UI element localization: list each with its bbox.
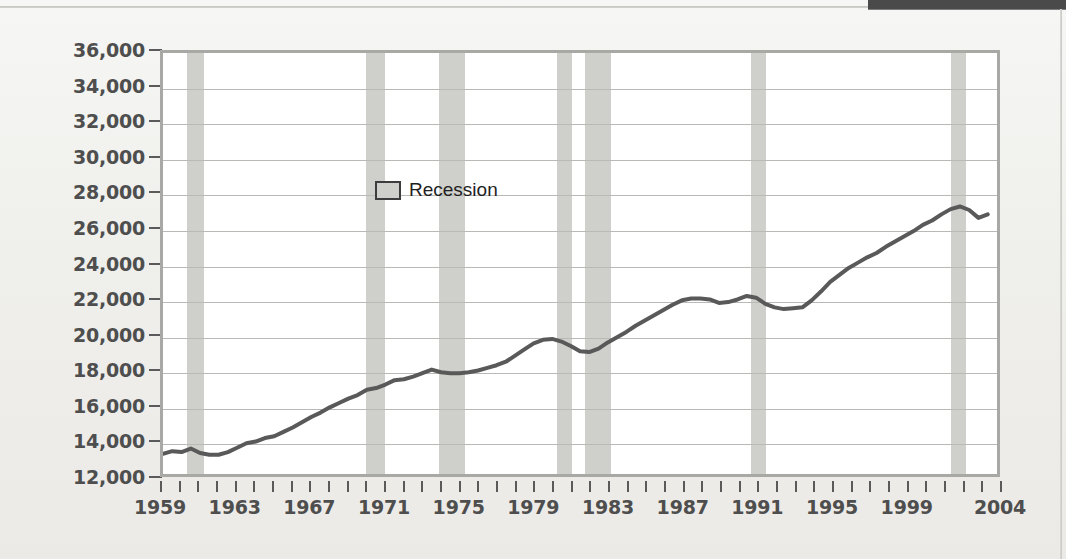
x-axis-tick-label: 1991 <box>717 496 797 518</box>
x-axis-tick-mark <box>309 481 311 492</box>
x-axis-tick-mark <box>291 481 293 492</box>
x-axis-tick-mark <box>459 481 461 492</box>
x-axis-tick-label: 1983 <box>568 496 648 518</box>
x-axis-tick-mark <box>963 481 965 492</box>
y-axis-tick-label: 36,000 <box>55 39 145 61</box>
x-axis-tick-mark <box>421 481 423 492</box>
y-axis-tick-label: 18,000 <box>55 359 145 381</box>
y-axis-tick-label: 16,000 <box>55 395 145 417</box>
x-axis-tick-mark <box>515 481 517 492</box>
x-axis-tick-mark <box>664 481 666 492</box>
y-axis-tick-labels: 12,00014,00016,00018,00020,00022,00024,0… <box>55 0 145 559</box>
x-axis-tick-mark <box>253 481 255 492</box>
chart-legend: Recession <box>375 179 498 201</box>
x-axis-tick-label: 1963 <box>195 496 275 518</box>
x-axis-tick-mark <box>795 481 797 492</box>
y-axis-tick-label: 14,000 <box>55 430 145 452</box>
x-axis-tick-mark <box>925 481 927 492</box>
x-axis-tick-mark <box>608 481 610 492</box>
y-axis-tick-label: 26,000 <box>55 217 145 239</box>
x-axis-tick-mark <box>440 481 442 492</box>
x-axis-tick-mark <box>160 481 162 492</box>
plot-area: Recession <box>160 50 1000 477</box>
x-axis-tick-mark <box>739 481 741 492</box>
x-axis-tick-mark <box>589 481 591 492</box>
x-axis-tick-mark <box>720 481 722 492</box>
x-axis-tick-mark <box>981 481 983 492</box>
x-axis-tick-mark <box>552 481 554 492</box>
x-axis-tick-mark <box>216 481 218 492</box>
recession-legend-label: Recession <box>409 179 498 201</box>
x-axis-tick-label: 1967 <box>269 496 349 518</box>
x-axis-tick-mark <box>645 481 647 492</box>
x-axis-tick-label: 1971 <box>344 496 424 518</box>
x-axis-tick-mark <box>701 481 703 492</box>
y-axis-tick-label: 32,000 <box>55 110 145 132</box>
x-axis-tick-label: 1987 <box>643 496 723 518</box>
x-axis-tick-label: 1979 <box>493 496 573 518</box>
x-axis-tick-label: 1975 <box>419 496 499 518</box>
x-axis-tick-mark <box>1000 481 1002 492</box>
income-series-line <box>163 53 997 474</box>
x-axis-tick-mark <box>869 481 871 492</box>
y-axis-tick-label: 20,000 <box>55 324 145 346</box>
y-axis-tick-label: 28,000 <box>55 181 145 203</box>
x-axis-tick-label: 1959 <box>120 496 200 518</box>
x-axis-tick-label: 1999 <box>867 496 947 518</box>
y-axis-tick-label: 24,000 <box>55 253 145 275</box>
x-axis-tick-mark <box>944 481 946 492</box>
x-axis-tick-label: 1995 <box>792 496 872 518</box>
x-axis-tick-mark <box>888 481 890 492</box>
x-axis-tick-mark <box>235 481 237 492</box>
x-axis-tick-label: 2004 <box>960 496 1040 518</box>
y-axis-tick-label: 12,000 <box>55 466 145 488</box>
recession-legend-swatch <box>375 181 401 200</box>
x-axis-tick-mark <box>776 481 778 492</box>
x-axis-tick-mark <box>328 481 330 492</box>
y-axis-tick-label: 30,000 <box>55 146 145 168</box>
x-axis-tick-mark <box>533 481 535 492</box>
y-axis-tick-label: 34,000 <box>55 75 145 97</box>
x-axis-tick-mark <box>477 481 479 492</box>
x-axis-tick-mark <box>813 481 815 492</box>
x-axis-tick-mark <box>757 481 759 492</box>
x-axis-tick-mark <box>272 481 274 492</box>
x-axis-tick-mark <box>365 481 367 492</box>
x-axis-tick-mark <box>384 481 386 492</box>
x-axis-tick-mark <box>179 481 181 492</box>
x-axis-tick-mark <box>907 481 909 492</box>
x-axis-tick-mark <box>197 481 199 492</box>
x-axis-tick-mark <box>832 481 834 492</box>
x-axis-tick-mark <box>627 481 629 492</box>
y-axis-tick-label: 22,000 <box>55 288 145 310</box>
x-axis-tick-mark <box>403 481 405 492</box>
x-axis-tick-mark <box>496 481 498 492</box>
x-axis-tick-mark <box>571 481 573 492</box>
x-axis-tick-mark <box>347 481 349 492</box>
x-axis-tick-mark <box>683 481 685 492</box>
income-line-chart: Constant (1996) dollars 12,00014,00016,0… <box>0 0 1066 559</box>
x-axis-tick-mark <box>851 481 853 492</box>
